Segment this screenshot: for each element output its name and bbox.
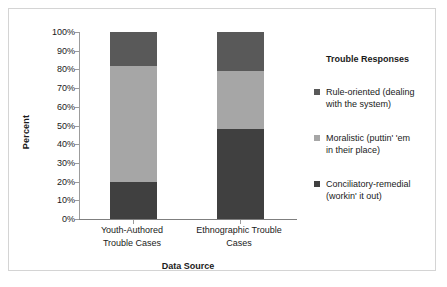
bar-segment[interactable] [110,32,157,66]
legend-label-line: with the system) [326,98,442,110]
y-axis-tick-mark [75,163,79,164]
y-axis-tick-label: 20% [37,176,75,188]
y-axis-tick-label: 10% [37,194,75,206]
y-axis-tick-mark [75,144,79,145]
y-axis-tick-mark [75,219,79,220]
y-axis-tick-label: 40% [37,138,75,150]
legend-swatch-icon [314,181,320,187]
legend-entry[interactable]: Moralistic (puttin' 'emin their place) [314,132,442,156]
legend-title: Trouble Responses [326,54,442,64]
x-axis-category-label-line: Trouble Cases [80,237,184,250]
x-axis-category-label-line: Ethnographic Trouble [187,224,291,237]
plot-area [79,32,297,220]
legend-entry[interactable]: Conciliatory-remedial(workin' it out) [314,178,442,202]
y-axis-tick-mark [75,51,79,52]
y-axis-tick-label: 100% [37,26,75,38]
legend-entries: Rule-oriented (dealingwith the system)Mo… [314,86,442,202]
y-axis-tick-label: 90% [37,45,75,57]
bar-segment[interactable] [217,71,264,129]
legend-label-line: (workin' it out) [326,190,442,202]
y-axis-tick-mark [75,200,79,201]
x-axis-category-label-line: Cases [187,237,291,250]
legend-entry[interactable]: Rule-oriented (dealingwith the system) [314,86,442,110]
bar-segment[interactable] [217,32,264,71]
y-axis-tick-label: 80% [37,63,75,75]
bar-segment[interactable] [110,66,157,182]
x-axis-title: Data Source [79,261,297,271]
legend-label-line: Conciliatory-remedial [326,178,442,190]
x-axis-line [79,219,297,220]
y-axis-tick-mark [75,88,79,89]
legend-swatch-icon [314,89,320,95]
bar-2[interactable] [217,32,264,219]
bar-1[interactable] [110,32,157,219]
bar-segment[interactable] [110,182,157,219]
legend-label-line: Rule-oriented (dealing [326,86,442,98]
y-axis-tick-mark [75,32,79,33]
y-axis-title: Percent [18,87,34,177]
x-axis-tick-labels: Youth-AuthoredTrouble CasesEthnographic … [69,224,309,260]
x-axis-category-label: Ethnographic TroubleCases [187,224,291,250]
legend-label-line: Moralistic (puttin' 'em [326,132,442,144]
y-axis-tick-label: 70% [37,82,75,94]
bar-segment[interactable] [217,129,264,219]
chart-frame: Percent 0%10%20%30%40%50%60%70%80%90%100… [8,8,436,271]
x-axis-category-label: Youth-AuthoredTrouble Cases [80,224,184,250]
y-axis-tick-mark [75,182,79,183]
y-axis-tick-label: 60% [37,101,75,113]
legend-swatch-icon [314,135,320,141]
y-axis-tick-mark [75,107,79,108]
x-axis-category-label-line: Youth-Authored [80,224,184,237]
chart-legend: Trouble Responses Rule-oriented (dealing… [314,54,442,224]
y-axis-tick-mark [75,69,79,70]
y-axis-tick-label: 30% [37,157,75,169]
y-axis-title-text: Percent [21,115,31,149]
legend-label-line: in their place) [326,144,442,156]
y-axis-tick-mark [75,126,79,127]
y-axis-tick-label: 50% [37,120,75,132]
y-axis-line [79,32,80,220]
y-axis-tick-labels: 0%10%20%30%40%50%60%70%80%90%100% [37,26,75,226]
